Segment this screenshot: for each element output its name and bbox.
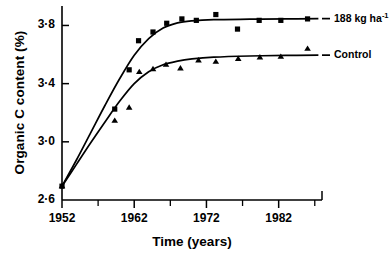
x-tick-label-0: 1952 [39,211,85,225]
data-point-square-0-8 [213,12,218,17]
legend-label-1: Control [334,48,371,60]
data-point-square-0-9 [235,26,240,31]
x-tick-label-2: 1972 [183,211,229,225]
data-point-square-0-11 [278,18,283,23]
data-point-square-0-6 [179,16,184,21]
data-point-square-0-12 [305,16,310,21]
y-tick-label-2: 3·4 [21,76,55,90]
data-point-square-0-2 [127,67,132,72]
legend-label-superscript-0: -1 [382,10,389,19]
y-tick-label-0: 2·6 [21,192,55,206]
data-point-square-0-5 [164,21,169,26]
data-point-triangle-1-3 [136,69,143,74]
data-point-square-0-3 [136,38,141,43]
fit-curve-1 [62,55,318,186]
y-tick-label-1: 3·0 [21,134,55,148]
x-tick-label-1: 1962 [111,211,157,225]
data-point-triangle-1-6 [177,65,184,70]
data-point-triangle-1-8 [213,58,220,63]
data-point-triangle-1-1 [111,117,118,122]
data-point-square-0-4 [150,29,155,34]
legend-label-text-0: 188 kg ha [334,12,382,24]
chart-figure: Organic C content (%) Time (years) 2·63·… [0,0,390,254]
data-point-triangle-1-12 [304,45,311,50]
fit-curve-0 [62,19,318,187]
data-point-square-0-1 [112,106,117,111]
y-tick-label-3: 3·8 [21,17,55,31]
x-tick-label-3: 1982 [256,211,302,225]
legend-label-text-1: Control [334,48,371,60]
data-point-square-0-10 [257,18,262,23]
data-point-triangle-1-2 [126,104,133,109]
legend-label-0: 188 kg ha-1 [334,12,389,24]
data-point-square-0-7 [194,18,199,23]
